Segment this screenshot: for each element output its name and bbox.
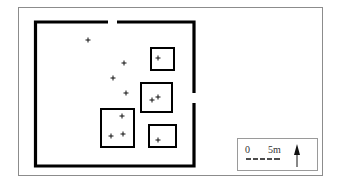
structure-c [101, 109, 134, 147]
wall-left-bottom [36, 22, 195, 166]
survey-marker-icon [122, 61, 127, 66]
survey-marker-icon [86, 38, 91, 43]
survey-marker-icon [150, 98, 155, 103]
survey-marker-icon [109, 134, 114, 139]
enclosure-walls [36, 22, 195, 166]
survey-marker-icon [121, 132, 126, 137]
survey-marker-icon [124, 91, 129, 96]
survey-marker-icon [111, 76, 116, 81]
survey-marker-icon [156, 95, 161, 100]
legend-graphics [238, 139, 319, 172]
legend-box: 0 5m [237, 138, 318, 171]
survey-marker-icon [156, 138, 161, 143]
survey-marker-icon [156, 56, 161, 61]
north-arrow-icon [294, 144, 300, 167]
structures [101, 48, 176, 147]
survey-marker-icon [120, 114, 125, 119]
structure-a [151, 48, 174, 70]
structure-d [149, 125, 176, 147]
